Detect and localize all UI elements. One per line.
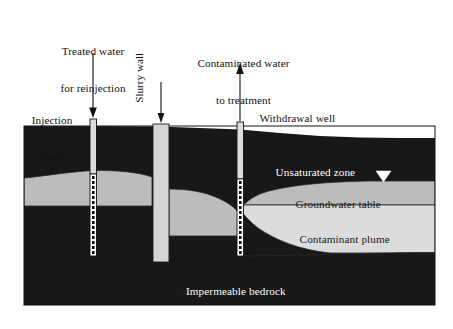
slurry-wall-arrow: [158, 82, 165, 123]
injection-well-label-line2: Well: [17, 151, 87, 163]
injection-well-label: Injection Well: [17, 89, 87, 188]
withdrawal-well-label: Withdrawal well: [248, 100, 335, 137]
groundwater-table-label: Groundwater table: [284, 186, 381, 223]
impermeable-bedrock-label-text: Impermeable bedrock: [186, 285, 286, 297]
unsaturated-zone-label-text: Unsaturated zone: [276, 166, 356, 178]
injection-well-label-line1: Injection: [17, 114, 87, 126]
impermeable-bedrock-label: Impermeable bedrock: [144, 273, 316, 310]
callout-contaminated-water-line1: Contaminated water: [176, 57, 311, 69]
callout-slurry-wall-label: Slurry wall: [133, 53, 145, 103]
groundwater-table-label-text: Groundwater table: [296, 198, 381, 210]
contaminant-plume-label: Contaminant plume: [288, 221, 390, 258]
contaminant-plume-label-text: Contaminant plume: [300, 233, 390, 245]
slurry-wall-body: [153, 124, 169, 262]
groundwater-remediation-figure: Treated water for reinjection Slurry wal…: [0, 0, 453, 329]
withdrawal-well-label-text: Withdrawal well: [259, 112, 335, 124]
callout-slurry-wall: Slurry wall: [121, 53, 157, 114]
injection-well-casing: [90, 119, 97, 174]
